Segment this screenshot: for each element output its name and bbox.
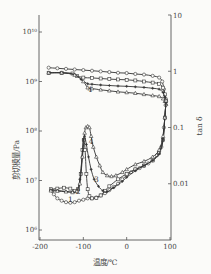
x-tick-label: -200 xyxy=(32,243,48,251)
series-1-point xyxy=(134,72,137,75)
series-6-point xyxy=(91,197,94,200)
series-2-line xyxy=(49,73,166,101)
series-1-point xyxy=(56,67,59,70)
series-6-point xyxy=(85,172,88,175)
series-8-point xyxy=(78,182,82,185)
y2-tick-label: 0.01 xyxy=(173,180,189,188)
series-6-point xyxy=(86,188,89,191)
y2-axis-label: tan δ xyxy=(195,116,204,136)
series-2-point xyxy=(91,76,94,79)
series-5-point xyxy=(60,199,63,202)
series-6-point xyxy=(95,196,98,199)
curve-annotation: 4 xyxy=(89,137,94,146)
series-2-point xyxy=(108,78,111,81)
series-5-point xyxy=(56,197,59,200)
series-1-point xyxy=(99,70,102,73)
series-8-point xyxy=(161,134,165,137)
y-axis-label: 剪切模量/Pa xyxy=(11,140,21,180)
y2-tick-label: 0.1 xyxy=(173,124,184,132)
curve-annotation: 4 xyxy=(87,85,92,94)
series-2-point xyxy=(117,78,120,81)
series-3-point xyxy=(151,87,154,90)
x-tick-label: 100 xyxy=(163,243,176,251)
series-1-point xyxy=(82,68,85,71)
series-3-point xyxy=(108,84,111,87)
x-tick-label: 0 xyxy=(124,243,128,251)
series-8-point xyxy=(98,164,102,167)
y2-tick-label: 10 xyxy=(173,12,182,20)
y-tick-label: 10⁹ xyxy=(25,78,37,86)
curve-annotation: 2 xyxy=(76,187,81,196)
y-tick-label: 10⁸ xyxy=(25,127,37,135)
chart: -200-100010010⁶10⁷10⁸10⁹10¹⁰0.010.1110 1… xyxy=(0,0,211,274)
series-2-point xyxy=(162,86,165,89)
series-8-line xyxy=(51,101,166,193)
series-6-point xyxy=(117,178,120,181)
series-6-point xyxy=(99,194,102,197)
series-3-point xyxy=(143,86,146,89)
series-1-point xyxy=(125,71,128,74)
series-2-point xyxy=(99,77,102,80)
series-7-line xyxy=(51,101,166,192)
series-3-point xyxy=(134,85,137,88)
series-6-point xyxy=(108,185,111,188)
series-8-point xyxy=(95,155,99,158)
y-tick-label: 10¹⁰ xyxy=(22,28,37,36)
series-6-point xyxy=(62,186,65,189)
series-1-point xyxy=(161,80,164,83)
series-1-point xyxy=(47,66,50,69)
series-2-point xyxy=(151,81,154,84)
series-7-point xyxy=(85,143,88,146)
x-tick-label: -100 xyxy=(75,243,91,251)
series-7-point xyxy=(87,156,90,159)
series-1-point xyxy=(142,73,145,76)
series-1-point xyxy=(158,76,161,79)
series-7-point xyxy=(90,168,93,171)
series-1-point xyxy=(151,74,154,77)
series-2-point xyxy=(158,82,161,85)
series-3-point xyxy=(125,85,128,88)
curve-annotation: 1 xyxy=(68,195,73,204)
series-3-point xyxy=(99,84,102,87)
curve-annotation: 3 xyxy=(94,175,99,184)
series-8-point xyxy=(83,131,87,134)
series-1-point xyxy=(73,68,76,71)
y-tick-label: 10⁶ xyxy=(25,226,37,234)
axes-frame xyxy=(39,15,171,240)
series-5-point xyxy=(52,193,55,196)
series-2-point xyxy=(82,76,85,79)
series-2-point xyxy=(125,78,128,81)
series-5-point xyxy=(73,201,76,204)
series-1-point xyxy=(108,70,111,73)
series-6-point xyxy=(84,148,87,151)
series-3-point xyxy=(117,85,120,88)
series-1-point xyxy=(64,67,67,70)
series-1-point xyxy=(90,69,93,72)
series-4-line xyxy=(49,73,166,104)
x-axis-label: 温度/℃ xyxy=(93,257,118,267)
series-2-point xyxy=(134,79,137,82)
series-6-point xyxy=(125,172,128,175)
y-tick-label: 10⁷ xyxy=(25,177,37,185)
series-1-point xyxy=(116,71,119,74)
series-6-point xyxy=(69,187,72,190)
series-6-line xyxy=(51,101,166,199)
series-5-point xyxy=(82,198,85,201)
series-3-line xyxy=(49,73,166,103)
series-2-point xyxy=(143,80,146,83)
y2-tick-label: 1 xyxy=(173,68,177,76)
series-1-line xyxy=(49,68,166,99)
series-5-point xyxy=(77,199,80,202)
